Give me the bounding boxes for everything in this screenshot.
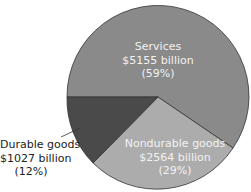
label-durable-goods: Durable goods $1027 billion (12%) <box>0 138 62 179</box>
nondurable-name: Nondurable goods <box>120 137 230 151</box>
durable-name: Durable goods <box>0 138 62 152</box>
nondurable-pct: (29%) <box>120 164 230 178</box>
label-nondurable-goods: Nondurable goods $2564 billion (29%) <box>120 137 230 178</box>
services-value: $5155 billion <box>118 54 198 68</box>
label-services: Services $5155 billion (59%) <box>118 40 198 81</box>
durable-pct: (12%) <box>0 165 62 179</box>
services-name: Services <box>118 40 198 54</box>
durable-value: $1027 billion <box>0 152 62 166</box>
services-pct: (59%) <box>118 67 198 81</box>
nondurable-value: $2564 billion <box>120 151 230 165</box>
